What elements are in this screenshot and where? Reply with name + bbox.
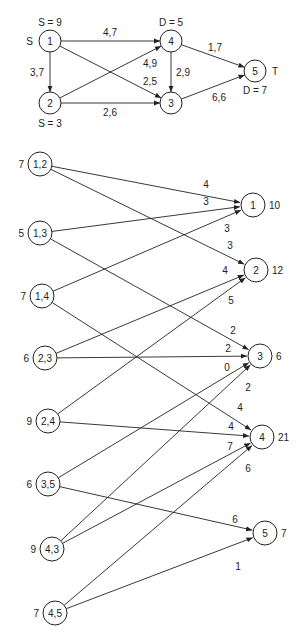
demand-value: 6 (276, 351, 282, 362)
cost-label: 7 (227, 441, 233, 452)
supply-value: 5 (18, 228, 24, 239)
demand-value: 12 (272, 265, 284, 276)
node-label: 3 (257, 351, 263, 362)
sink-node-1: 110 (241, 193, 281, 217)
cost-label: 2 (245, 382, 251, 393)
demand-value: 21 (278, 432, 290, 443)
node-label: 1,3 (33, 228, 47, 239)
edge-label: 2,9 (176, 67, 190, 78)
edge-label: 3,7 (30, 67, 44, 78)
network-node-2: 2S = 3 (38, 92, 62, 129)
node-annotation: D = 5 (159, 17, 184, 28)
bipartite-edge-13-3 (50, 239, 248, 350)
source-node-35: 3,56 (26, 472, 60, 496)
bipartite-edges: 4332344254062761 (50, 166, 252, 608)
node-label: 3 (168, 98, 174, 109)
node-label: 2 (253, 265, 259, 276)
network-nodes: 1S = 9S2S = 334D = 55TD = 7 (26, 17, 278, 129)
source-node-12: 1,27 (18, 152, 52, 176)
network-node-5: 5TD = 7 (243, 60, 278, 96)
node-label: 3,5 (41, 479, 55, 490)
edge-label: 4,7 (103, 27, 117, 38)
edge-label: 6,6 (212, 92, 226, 103)
bipartite-edge-12-1 (52, 166, 240, 202)
bipartite-edge-23-3 (57, 356, 247, 358)
cost-label: 3 (203, 196, 209, 207)
bipartite-edge-35-3 (58, 363, 249, 478)
bipartite-edge-14-4 (52, 302, 251, 430)
network-node-1: 1S = 9S (26, 17, 62, 53)
sink-node-5: 57 (253, 521, 287, 545)
node-label: 1,4 (35, 291, 49, 302)
supply-value: 6 (26, 479, 32, 490)
supply-value: 6 (23, 353, 29, 364)
supply-value: 9 (30, 544, 36, 555)
cost-label: 3 (224, 223, 230, 234)
node-label: 4,3 (45, 544, 59, 555)
sink-node-2: 212 (244, 258, 284, 282)
node-annotation: D = 7 (243, 85, 268, 96)
network-edges: 4,73,72,54,92,62,91,76,6 (30, 27, 245, 118)
cost-label: 2 (230, 325, 236, 336)
node-annotation: S (26, 36, 33, 47)
supply-value: 7 (20, 291, 26, 302)
bipartite-edge-13-1 (52, 207, 240, 232)
node-label: 1 (47, 36, 53, 47)
cost-label: 4 (222, 265, 228, 276)
sink-node-3: 36 (248, 344, 282, 368)
edge-label: 1,7 (208, 42, 222, 53)
bipartite-edge-45-5 (66, 538, 253, 609)
bipartite-edge-14-1 (53, 210, 241, 291)
demand-value: 10 (269, 200, 281, 211)
source-node-24: 2,49 (26, 409, 60, 433)
supply-value: 9 (26, 416, 32, 427)
bipartite-edge-23-2 (56, 275, 244, 353)
node-label: 4 (259, 432, 265, 443)
node-label: 5 (252, 66, 258, 77)
edge-label: 2,5 (143, 76, 157, 87)
bipartite-edge-45-4 (64, 445, 252, 605)
supply-value: 7 (33, 608, 39, 619)
source-node-23: 2,36 (23, 346, 57, 370)
transshipment-diagram: 4,73,72,54,92,62,91,76,6 1S = 9S2S = 334… (0, 0, 305, 639)
network-node-3: 3 (160, 92, 182, 114)
cost-label: 6 (232, 514, 238, 525)
sink-node-4: 421 (250, 425, 290, 449)
node-annotation: S = 3 (38, 118, 62, 129)
supply-value: 7 (18, 159, 24, 170)
source-node-14: 1,47 (20, 284, 54, 308)
cost-label: 6 (245, 463, 251, 474)
node-label: 2,4 (41, 416, 55, 427)
edge-label: 2,6 (103, 107, 117, 118)
node-label: 4,5 (48, 608, 62, 619)
cost-label: 2 (225, 343, 231, 354)
source-node-43: 4,39 (30, 537, 64, 561)
cost-label: 4 (237, 402, 243, 413)
cost-label: 4 (203, 179, 209, 190)
demand-value: 7 (281, 528, 287, 539)
node-label: 2 (47, 98, 53, 109)
cost-label: 3 (227, 240, 233, 251)
source-node-13: 1,35 (18, 221, 52, 245)
cost-label: 0 (224, 362, 230, 373)
node-label: 2,3 (38, 353, 52, 364)
bipartite-edge-24-2 (58, 278, 246, 414)
node-label: 1 (250, 200, 256, 211)
network-node-4: 4D = 5 (159, 17, 184, 53)
node-label: 5 (262, 528, 268, 539)
node-annotation: S = 9 (38, 17, 62, 28)
node-label: 4 (168, 36, 174, 47)
cost-label: 5 (228, 295, 234, 306)
bipartite-edge-24-4 (60, 422, 249, 436)
node-annotation: T (272, 66, 278, 77)
cost-label: 4 (228, 421, 234, 432)
node-label: 1,2 (33, 159, 47, 170)
cost-label: 1 (235, 561, 241, 572)
source-node-45: 4,57 (33, 601, 67, 625)
edge-label: 4,9 (143, 58, 157, 69)
